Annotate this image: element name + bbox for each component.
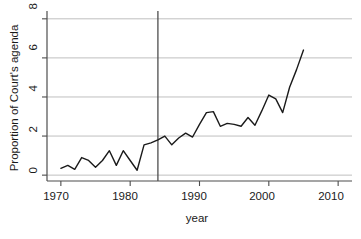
chart-container: Proportion of Court's agenda 8 6 4 2 0 1… bbox=[0, 0, 361, 239]
axis-lines bbox=[47, 11, 352, 181]
data-series-line bbox=[61, 50, 304, 170]
x-tick-marks bbox=[61, 181, 338, 186]
gridlines bbox=[47, 19, 352, 175]
plot-area bbox=[0, 0, 361, 239]
y-tick-marks bbox=[42, 19, 47, 175]
series-line-0 bbox=[61, 50, 304, 170]
